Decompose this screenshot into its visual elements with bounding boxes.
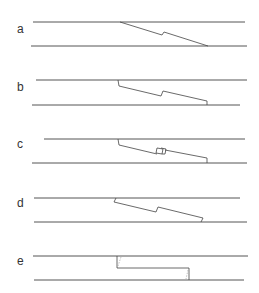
fault-diagram: a b c d e [0,0,259,293]
orthogonal-fracture-line [117,256,189,280]
stepped-fracture-line [118,80,207,105]
faint-diagonal-upper [118,257,121,266]
faint-diagonal-lower [186,270,188,279]
panel-b: b [17,80,247,105]
panel-label-b: b [17,80,24,94]
panel-d: d [17,196,247,222]
stepped-fracture-line [114,198,203,222]
panel-label-c: c [17,137,23,151]
fracture-line-right [165,150,207,163]
panel-label-a: a [17,22,24,36]
panel-c: c [17,137,247,163]
panel-a: a [17,22,247,46]
bridge-block [156,148,163,154]
panel-label-d: d [17,196,24,210]
panel-label-e: e [17,254,24,268]
panel-e: e [17,254,248,280]
fracture-line-left [118,139,157,154]
stepped-fracture-line [120,22,208,46]
